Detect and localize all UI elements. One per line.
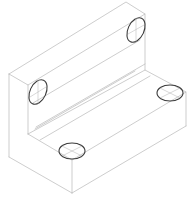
l-bracket-drawing — [0, 0, 196, 198]
hole-base-left — [59, 143, 85, 159]
hole-base-right — [157, 85, 183, 101]
isometric-drawing — [0, 0, 196, 198]
hole-upper-left — [25, 77, 50, 107]
